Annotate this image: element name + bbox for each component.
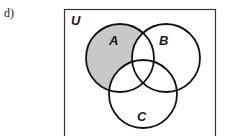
universe-label: U: [71, 13, 81, 28]
venn-diagram: U A B C: [0, 0, 227, 136]
set-label-b: B: [159, 33, 168, 48]
set-label-a: A: [108, 33, 118, 48]
set-label-c: C: [137, 109, 147, 124]
